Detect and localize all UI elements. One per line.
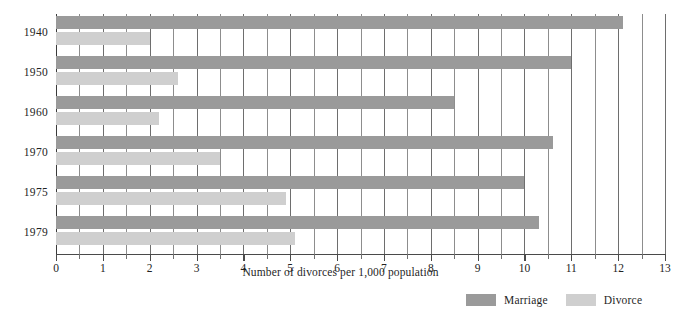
y-axis-labels: 194019501960197019751979	[0, 14, 52, 254]
bar-group-1960	[56, 94, 665, 134]
bar-marriage-1970	[56, 136, 553, 149]
x-tick-13	[665, 254, 666, 261]
legend-item-divorce: Divorce	[566, 294, 642, 306]
x-tick-5.5	[314, 254, 315, 259]
bar-divorce-1970	[56, 152, 220, 165]
bar-divorce-1979	[56, 232, 295, 245]
x-tick-6.5	[361, 254, 362, 259]
gridline-13	[665, 14, 666, 254]
bar-divorce-1940	[56, 32, 150, 45]
bar-marriage-1975	[56, 176, 524, 189]
y-tick-label-1970: 1970	[0, 146, 48, 158]
bar-divorce-1960	[56, 112, 159, 125]
x-tick-8	[431, 254, 432, 261]
x-axis-title: Number of divorces per 1,000 population	[0, 266, 681, 278]
x-tick-1.5	[126, 254, 127, 259]
legend-label-divorce: Divorce	[604, 294, 642, 306]
bar-group-1970	[56, 134, 665, 174]
legend-item-marriage: Marriage	[466, 294, 548, 306]
x-tick-2.5	[173, 254, 174, 259]
x-tick-1	[103, 254, 104, 261]
x-tick-8.5	[454, 254, 455, 259]
x-tick-11	[571, 254, 572, 261]
x-tick-9.5	[501, 254, 502, 259]
bar-marriage-1940	[56, 16, 623, 29]
x-tick-7	[384, 254, 385, 261]
x-tick-12.5	[642, 254, 643, 259]
x-tick-4	[243, 254, 244, 261]
legend-label-marriage: Marriage	[504, 294, 548, 306]
x-tick-6	[337, 254, 338, 261]
x-tick-12	[618, 254, 619, 261]
y-tick-label-1950: 1950	[0, 66, 48, 78]
x-tick-11.5	[595, 254, 596, 259]
chart-figure: 194019501960197019751979 012345678910111…	[0, 0, 681, 319]
bar-divorce-1975	[56, 192, 286, 205]
bar-divorce-1950	[56, 72, 178, 85]
bar-marriage-1979	[56, 216, 539, 229]
x-tick-2	[150, 254, 151, 261]
bar-group-1940	[56, 14, 665, 54]
x-tick-0.5	[79, 254, 80, 259]
y-tick-label-1960: 1960	[0, 106, 48, 118]
x-tick-10	[524, 254, 525, 261]
x-tick-4.5	[267, 254, 268, 259]
x-tick-3.5	[220, 254, 221, 259]
x-tick-10.5	[548, 254, 549, 259]
bar-rows	[56, 14, 665, 254]
bar-group-1975	[56, 174, 665, 214]
bar-group-1950	[56, 54, 665, 94]
x-tick-7.5	[407, 254, 408, 259]
bar-marriage-1950	[56, 56, 571, 69]
x-tick-0	[56, 254, 57, 261]
chart-legend: MarriageDivorce	[466, 290, 642, 310]
y-tick-label-1979: 1979	[0, 226, 48, 238]
legend-swatch-marriage	[466, 294, 496, 306]
x-tick-3	[197, 254, 198, 261]
plot-area	[56, 14, 665, 254]
legend-swatch-divorce	[566, 294, 596, 306]
bar-marriage-1960	[56, 96, 454, 109]
bar-group-1979	[56, 214, 665, 254]
y-tick-label-1975: 1975	[0, 186, 48, 198]
y-tick-label-1940: 1940	[0, 26, 48, 38]
x-tick-9	[478, 254, 479, 261]
x-tick-5	[290, 254, 291, 261]
